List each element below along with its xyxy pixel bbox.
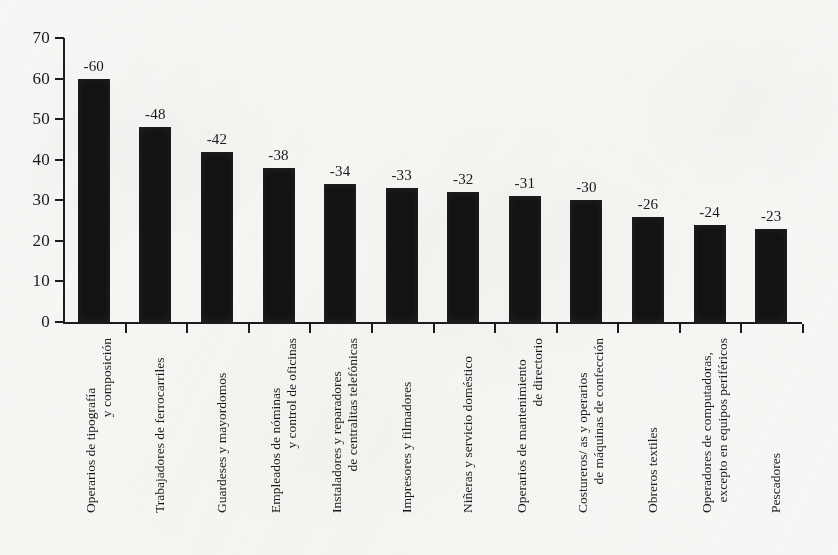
bar-value-label: -30 [556, 180, 616, 195]
bar-value-label: -33 [372, 168, 432, 183]
x-axis-tick [186, 324, 188, 333]
y-axis-tick-label: 50 [10, 110, 50, 127]
x-axis-category-label: Operarios de mantenimientode directorio [514, 338, 545, 513]
x-axis-category-label-line: Trabajadores de ferrocarriles [152, 338, 168, 513]
bar-value-label: -34 [310, 164, 370, 179]
x-axis-tick [433, 324, 435, 333]
bar [570, 200, 602, 322]
y-axis-tick [55, 199, 64, 201]
x-axis-category-label: Obreros textiles [645, 338, 661, 513]
x-axis-category-label: Operarios de tipografíay composición [83, 338, 114, 513]
x-axis-category-label-line: Operadores de computadoras, [699, 338, 715, 513]
x-axis-category-label: Pescadores [768, 338, 784, 513]
x-axis-category-label-line: excepto en equipos periféricos [714, 338, 730, 513]
x-axis-tick [556, 324, 558, 333]
bar [324, 184, 356, 322]
bar-value-label: -60 [64, 59, 124, 74]
x-axis-category-label-line: de centralitas telefónicas [345, 338, 361, 513]
x-axis-category-label-line: Operarios de mantenimiento [514, 338, 530, 513]
bar-value-label: -26 [618, 197, 678, 212]
bar [755, 229, 787, 322]
x-axis-category-label: Niñeras y servicio doméstico [460, 338, 476, 513]
y-axis-tick [55, 78, 64, 80]
chart-page: 010203040506070 -60-48-42-38-34-33-32-31… [0, 0, 838, 555]
bar [139, 127, 171, 322]
x-axis-category-label-line: Operarios de tipografía [83, 338, 99, 513]
x-axis-tick [494, 324, 496, 333]
bar [509, 196, 541, 322]
y-axis-tick-label: 60 [10, 70, 50, 87]
bar-value-label: -32 [433, 172, 493, 187]
y-axis-tick [55, 159, 64, 161]
bar-chart-plot-area: 010203040506070 -60-48-42-38-34-33-32-31… [0, 0, 838, 555]
bar-value-label: -38 [249, 148, 309, 163]
x-axis-category-label: Empleados de nóminasy control de oficina… [268, 338, 299, 513]
x-axis-category-label: Instaladores y reparadoresde centralitas… [329, 338, 360, 513]
y-axis-tick [55, 240, 64, 242]
x-axis-category-label: Impresores y filmadores [399, 338, 415, 513]
y-axis-tick-label: 20 [10, 232, 50, 249]
y-axis-tick-label: 10 [10, 272, 50, 289]
y-axis-tick [55, 321, 64, 323]
x-axis-category-label-line: Pescadores [768, 338, 784, 513]
bar [447, 192, 479, 322]
x-axis-category-label-line: Impresores y filmadores [399, 338, 415, 513]
y-axis-tick-label: 40 [10, 151, 50, 168]
y-axis-tick-label: 70 [10, 29, 50, 46]
x-axis-category-label-line: Niñeras y servicio doméstico [460, 338, 476, 513]
x-axis-tick [248, 324, 250, 333]
x-axis-category-label: Guardeses y mayordomos [214, 338, 230, 513]
bar [201, 152, 233, 322]
x-axis-tick [679, 324, 681, 333]
x-axis-category-label-line: de máquinas de confección [591, 338, 607, 513]
bar [386, 188, 418, 322]
y-axis-tick-label: 30 [10, 191, 50, 208]
bar [632, 217, 664, 322]
bar-value-label: -48 [125, 107, 185, 122]
y-axis-tick [55, 280, 64, 282]
x-axis-tick [125, 324, 127, 333]
y-axis-tick-label: 0 [10, 313, 50, 330]
bar [694, 225, 726, 322]
x-axis-category-label-line: Instaladores y reparadores [329, 338, 345, 513]
x-axis-category-label-line: y control de oficinas [283, 338, 299, 513]
x-axis-category-label-line: Empleados de nóminas [268, 338, 284, 513]
x-axis-category-label-line: y composición [98, 338, 114, 513]
x-axis-category-label-line: Guardeses y mayordomos [214, 338, 230, 513]
bar-value-label: -23 [741, 209, 801, 224]
x-axis-tick [802, 324, 804, 333]
bar-value-label: -24 [680, 205, 740, 220]
x-axis-tick [740, 324, 742, 333]
y-axis-tick [55, 37, 64, 39]
x-axis-tick [309, 324, 311, 333]
x-axis-category-label-line: Obreros textiles [645, 338, 661, 513]
x-axis-category-label-line: Costureros/ as y operarios [575, 338, 591, 513]
bar-value-label: -42 [187, 132, 247, 147]
x-axis-tick [371, 324, 373, 333]
bar [263, 168, 295, 322]
y-axis-tick [55, 118, 64, 120]
x-axis-category-label: Operadores de computadoras,excepto en eq… [699, 338, 730, 513]
bar-value-label: -31 [495, 176, 555, 191]
x-axis-category-label: Trabajadores de ferrocarriles [152, 338, 168, 513]
bar [78, 79, 110, 322]
x-axis-tick [617, 324, 619, 333]
x-axis-category-label-line: de directorio [529, 338, 545, 513]
x-axis-category-label: Costureros/ as y operariosde máquinas de… [575, 338, 606, 513]
